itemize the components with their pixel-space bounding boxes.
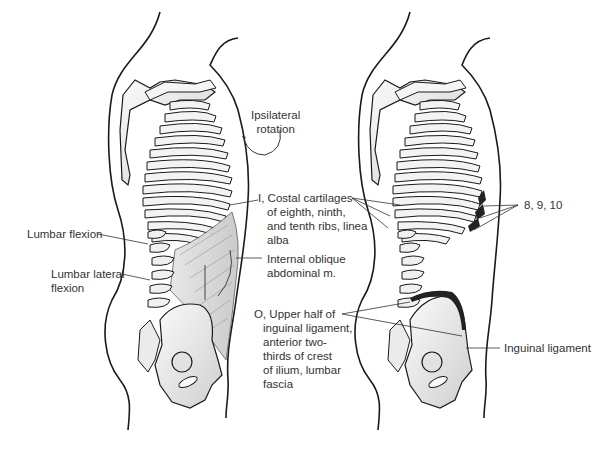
label-lumbar-lateral-line2: flexion bbox=[51, 281, 125, 295]
label-origin-line1: O, Upper half of bbox=[254, 307, 353, 321]
left-ribcage bbox=[143, 100, 232, 244]
label-lumbar-lateral-line1: Lumbar lateral bbox=[51, 267, 125, 281]
label-origin-line3: anterior two- bbox=[254, 335, 353, 349]
label-rotation-line1: Ipsilateral bbox=[251, 108, 300, 122]
label-muscle-line2: abdominal m. bbox=[267, 266, 346, 280]
label-insertion-line2: of eighth, ninth, bbox=[258, 205, 367, 219]
label-lumbar-flexion: Lumbar flexion bbox=[27, 227, 102, 241]
label-rotation-line2: rotation bbox=[251, 122, 300, 136]
label-origin-line2: inguinal ligament, bbox=[254, 321, 353, 335]
label-origin: O, Upper half of inguinal ligament, ante… bbox=[254, 307, 353, 391]
left-acetabulum bbox=[172, 352, 192, 372]
label-origin-line6: fascia bbox=[254, 377, 353, 391]
right-acetabulum bbox=[422, 352, 442, 372]
label-ipsilateral-rotation: Ipsilateral rotation bbox=[251, 108, 300, 136]
label-insertion-line4: alba bbox=[258, 233, 367, 247]
label-muscle-line1: Internal oblique bbox=[267, 252, 346, 266]
label-origin-line5: of ilium, lumbar bbox=[254, 363, 353, 377]
label-internal-oblique-muscle: Internal oblique abdominal m. bbox=[267, 252, 346, 280]
label-insertion-line1: I, Costal cartilages bbox=[258, 191, 367, 205]
right-figure bbox=[342, 12, 518, 430]
label-inguinal-ligament: Inguinal ligament bbox=[504, 341, 591, 355]
label-insertion: I, Costal cartilages of eighth, ninth, a… bbox=[258, 191, 367, 247]
label-ribs-8-9-10: 8, 9, 10 bbox=[524, 198, 562, 212]
label-insertion-line3: and tenth ribs, linea bbox=[258, 219, 367, 233]
left-body-outline-back bbox=[105, 12, 160, 430]
label-lumbar-lateral-flexion: Lumbar lateral flexion bbox=[51, 267, 125, 295]
right-ribcage bbox=[393, 100, 482, 244]
label-origin-line4: thirds of crest bbox=[254, 349, 353, 363]
